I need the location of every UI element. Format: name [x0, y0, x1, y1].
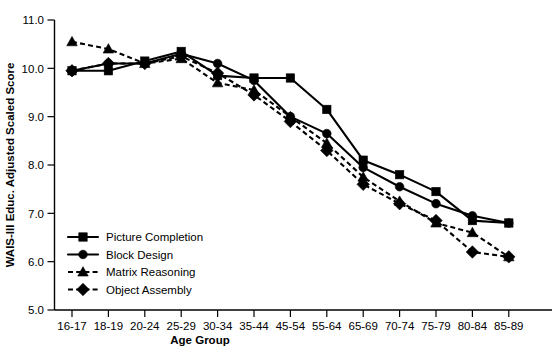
legend-label: Picture Completion — [106, 231, 203, 243]
legend-label: Matrix Reasoning — [106, 266, 195, 278]
data-point-square — [79, 233, 87, 241]
y-tick-label: 9.0 — [28, 111, 44, 123]
y-tick-label: 7.0 — [28, 208, 44, 220]
data-point-circle — [395, 182, 404, 191]
x-tick-label: 35-44 — [239, 320, 269, 332]
data-point-circle — [504, 219, 513, 228]
data-point-circle — [322, 129, 331, 138]
x-tick-label: 75-79 — [421, 320, 450, 332]
y-tick-label: 6.0 — [28, 256, 44, 268]
x-tick-label: 18-19 — [94, 320, 123, 332]
data-point-square — [323, 105, 331, 113]
data-point-circle — [250, 76, 259, 85]
data-point-square — [395, 170, 403, 178]
x-tick-label: 55-64 — [312, 320, 342, 332]
x-tick-label: 80-84 — [458, 320, 488, 332]
x-tick-label: 70-74 — [385, 320, 415, 332]
x-tick-label: 20-24 — [130, 320, 160, 332]
data-point-circle — [432, 199, 441, 208]
x-tick-label: 16-17 — [57, 320, 86, 332]
x-tick-label: 65-69 — [348, 320, 377, 332]
data-point-circle — [359, 163, 368, 172]
x-axis-title: Age Group — [170, 334, 229, 346]
x-tick-label: 30-34 — [203, 320, 233, 332]
y-tick-label: 10.0 — [22, 63, 44, 75]
data-point-circle — [79, 250, 88, 259]
legend-label: Block Design — [106, 249, 173, 261]
y-tick-label: 8.0 — [28, 159, 44, 171]
wais-iii-scaled-score-line-chart: 5.06.07.08.09.010.011.0 WAIS-III Educ. A… — [0, 0, 559, 349]
x-tick-label: 85-89 — [494, 320, 523, 332]
y-tick-label: 11.0 — [22, 14, 44, 26]
chart-container: 5.06.07.08.09.010.011.0 WAIS-III Educ. A… — [0, 0, 559, 349]
data-point-square — [286, 74, 294, 82]
chart-background — [0, 0, 559, 349]
legend-item-block-design[interactable]: Block Design — [68, 249, 173, 261]
data-point-square — [432, 187, 440, 195]
x-tick-label: 45-54 — [276, 320, 306, 332]
data-point-circle — [468, 211, 477, 220]
y-axis-title: WAIS-III Educ. Adjusted Scaled Score — [4, 63, 16, 268]
x-tick-label: 25-29 — [166, 320, 195, 332]
legend-label: Object Assembly — [106, 284, 192, 296]
y-tick-label: 5.0 — [28, 304, 44, 316]
